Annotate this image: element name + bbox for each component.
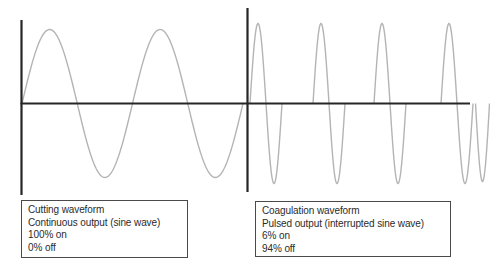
waveform-figure: Cutting waveform Continuous output (sine… — [0, 0, 490, 271]
coagulation-label-box: Coagulation waveform Pulsed output (inte… — [255, 201, 451, 257]
cutting-label-on: 100% on — [28, 229, 181, 242]
coagulation-label-on: 6% on — [262, 230, 444, 243]
coagulation-label-off: 94% off — [262, 243, 444, 256]
coagulation-label-title: Coagulation waveform — [262, 205, 444, 218]
cutting-label-off: 0% off — [28, 242, 181, 255]
coagulation-label-output: Pulsed output (interrupted sine wave) — [262, 218, 444, 231]
cutting-label-title: Cutting waveform — [28, 204, 181, 217]
cutting-label-output: Continuous output (sine wave) — [28, 217, 181, 230]
cutting-label-box: Cutting waveform Continuous output (sine… — [21, 200, 188, 258]
